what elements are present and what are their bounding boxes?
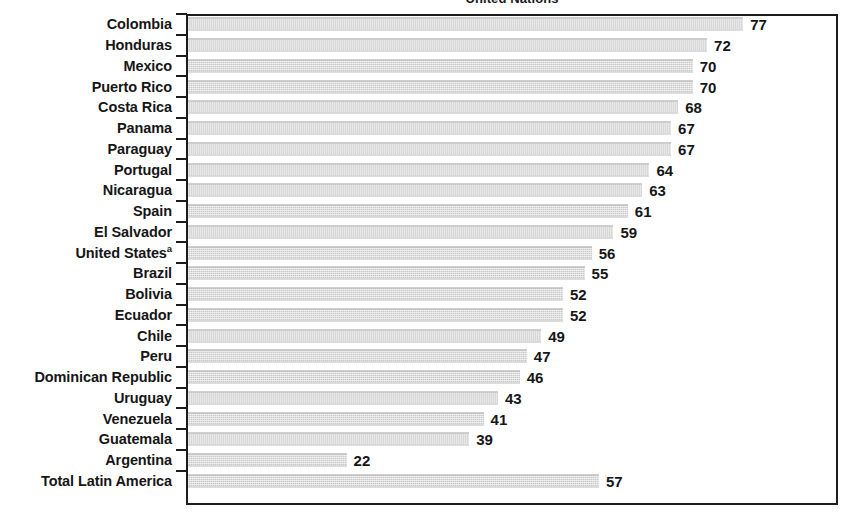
- bar-row: Spain61: [0, 201, 853, 222]
- category-label: Honduras: [105, 37, 172, 53]
- category-label: Paraguay: [108, 141, 173, 157]
- axis-tick: [176, 304, 187, 306]
- bar-row: Chile49: [0, 325, 853, 346]
- axis-tick: [176, 138, 187, 140]
- bar-value-label: 64: [656, 162, 673, 177]
- bar-value-label: 63: [649, 183, 666, 198]
- category-label: Total Latin America: [41, 473, 172, 489]
- bar-value-label: 39: [476, 432, 493, 447]
- bar-with-value: 47: [188, 350, 551, 363]
- category-label: Ecuador: [115, 307, 172, 323]
- bar-with-value: 56: [188, 246, 615, 259]
- axis-tick: [176, 470, 187, 472]
- category-label: Nicaragua: [103, 182, 172, 198]
- bar-value-label: 67: [678, 121, 695, 136]
- bar-value-label: 52: [570, 307, 587, 322]
- bar-value-label: 49: [548, 328, 565, 343]
- category-label: Dominican Republic: [34, 369, 172, 385]
- bar: [188, 163, 649, 176]
- axis-tick: [176, 345, 187, 347]
- bar: [188, 59, 693, 72]
- axis-tick: [176, 262, 187, 264]
- bar-value-label: 59: [620, 224, 637, 239]
- bar: [188, 474, 599, 487]
- category-label: Chile: [137, 328, 172, 344]
- bar: [188, 412, 484, 425]
- bar-with-value: 57: [188, 474, 623, 487]
- bar-row: Uruguay43: [0, 388, 853, 409]
- bar: [188, 350, 527, 363]
- bar: [188, 39, 707, 52]
- axis-tick: [176, 449, 187, 451]
- bar: [188, 267, 585, 280]
- category-label: Portugal: [114, 162, 172, 178]
- axis-tick: [176, 179, 187, 181]
- bar-with-value: 70: [188, 59, 716, 72]
- category-label: Spain: [133, 203, 172, 219]
- axis-tick: [176, 428, 187, 430]
- bar-row: Brazil55: [0, 263, 853, 284]
- bar: [188, 80, 693, 93]
- chart-title: United Nations: [186, 0, 838, 4]
- bar-value-label: 61: [635, 204, 652, 219]
- bar-with-value: 43: [188, 391, 522, 404]
- bar-with-value: 59: [188, 225, 637, 238]
- bar-with-value: 55: [188, 267, 608, 280]
- bar-row: Peru47: [0, 346, 853, 367]
- bar-with-value: 22: [188, 454, 370, 467]
- category-label: El Salvador: [94, 224, 172, 240]
- category-label: Uruguay: [114, 390, 172, 406]
- bar-value-label: 55: [592, 266, 609, 281]
- axis-tick: [176, 366, 187, 368]
- bar-row: Total Latin America57: [0, 471, 853, 492]
- axis-tick: [176, 200, 187, 202]
- category-label: Mexico: [123, 58, 172, 74]
- bar-with-value: 67: [188, 142, 695, 155]
- bar-rows: Colombia77Honduras72Mexico70Puerto Rico7…: [0, 14, 853, 505]
- bar-row: Ecuador52: [0, 305, 853, 326]
- category-label: Venezuela: [103, 411, 172, 427]
- bar-row: Argentina22: [0, 450, 853, 471]
- category-label: Brazil: [133, 265, 172, 281]
- bar-row: Mexico70: [0, 56, 853, 77]
- bar-value-label: 57: [606, 473, 623, 488]
- bar-value-label: 43: [505, 390, 522, 405]
- bar: [188, 225, 613, 238]
- bar-row: Nicaragua63: [0, 180, 853, 201]
- bar: [188, 371, 520, 384]
- axis-tick: [176, 96, 187, 98]
- bar-row: Guatemala39: [0, 429, 853, 450]
- bar-row: Panama67: [0, 118, 853, 139]
- bar: [188, 391, 498, 404]
- bar: [188, 433, 469, 446]
- bar-row: Bolivia52: [0, 284, 853, 305]
- bar-with-value: 64: [188, 163, 673, 176]
- bar: [188, 246, 592, 259]
- category-label: Puerto Rico: [92, 79, 172, 95]
- axis-tick: [176, 221, 187, 223]
- bar-value-label: 52: [570, 287, 587, 302]
- bar-with-value: 67: [188, 122, 695, 135]
- bar-value-label: 47: [534, 349, 551, 364]
- category-label: Peru: [140, 348, 172, 364]
- bar-value-label: 72: [714, 38, 731, 53]
- bar-with-value: 68: [188, 101, 702, 114]
- bar: [188, 122, 671, 135]
- bar: [188, 454, 347, 467]
- bar-with-value: 72: [188, 39, 731, 52]
- footnote-marker: a: [167, 243, 172, 254]
- axis-tick: [176, 75, 187, 77]
- bar-row: Costa Rica68: [0, 97, 853, 118]
- category-label: United Statesa: [75, 245, 172, 261]
- category-label: Panama: [117, 120, 172, 136]
- bar-row: Colombia77: [0, 14, 853, 35]
- category-label: Colombia: [107, 16, 172, 32]
- bar-with-value: 52: [188, 308, 587, 321]
- bar-row: Honduras72: [0, 35, 853, 56]
- bar: [188, 329, 541, 342]
- bar-value-label: 56: [599, 245, 616, 260]
- bar-with-value: 70: [188, 80, 716, 93]
- bar-row: Paraguay67: [0, 139, 853, 160]
- axis-tick: [176, 387, 187, 389]
- category-label: Argentina: [105, 452, 172, 468]
